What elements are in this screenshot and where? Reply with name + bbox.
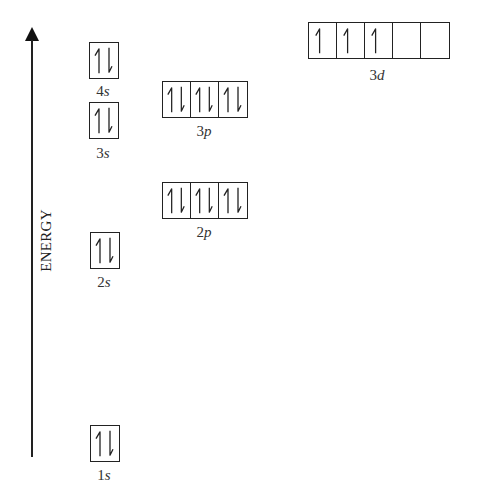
orbital-box	[365, 23, 393, 58]
orbital-box	[219, 82, 247, 117]
spin-pair-arrows-icon	[219, 82, 247, 117]
label-3s: 3s	[83, 145, 123, 162]
energy-arrowhead-icon	[25, 27, 39, 41]
label-3p: 3p	[184, 123, 224, 140]
spin-pair-arrows-icon	[90, 103, 118, 138]
label-2p: 2p	[184, 224, 224, 241]
orbital-box	[393, 23, 421, 58]
energy-axis	[31, 40, 33, 457]
spin-pair-arrows-icon	[163, 183, 190, 218]
energy-axis-label: ENERGY	[38, 206, 55, 276]
empty-box	[421, 23, 449, 58]
orbital-box	[91, 233, 119, 268]
orbital-box	[91, 426, 119, 461]
spin-up-arrow-icon	[337, 23, 364, 58]
orbital-3p	[162, 81, 248, 118]
orbital-2s	[90, 232, 120, 269]
orbital-3d	[308, 22, 450, 59]
label-4s: 4s	[83, 83, 123, 100]
orbital-box	[163, 183, 191, 218]
orbital-4s	[89, 42, 119, 79]
spin-pair-arrows-icon	[191, 183, 218, 218]
orbital-box	[309, 23, 337, 58]
empty-box	[393, 23, 420, 58]
spin-up-arrow-icon	[309, 23, 336, 58]
orbital-box	[90, 43, 118, 78]
spin-pair-arrows-icon	[191, 82, 218, 117]
spin-pair-arrows-icon	[219, 183, 247, 218]
orbital-box	[163, 82, 191, 117]
spin-up-arrow-icon	[365, 23, 392, 58]
orbital-box	[219, 183, 247, 218]
orbital-box	[421, 23, 449, 58]
orbital-2p	[162, 182, 248, 219]
orbital-3s	[89, 102, 119, 139]
spin-pair-arrows-icon	[163, 82, 190, 117]
spin-pair-arrows-icon	[91, 233, 119, 268]
label-2s: 2s	[84, 274, 124, 291]
label-1s: 1s	[84, 467, 124, 484]
orbital-box	[191, 82, 219, 117]
orbital-box	[191, 183, 219, 218]
spin-pair-arrows-icon	[91, 426, 119, 461]
cropped-top-text	[0, 0, 492, 6]
orbital-1s	[90, 425, 120, 462]
orbital-box	[337, 23, 365, 58]
orbital-box	[90, 103, 118, 138]
label-3d: 3d	[357, 67, 397, 84]
spin-pair-arrows-icon	[90, 43, 118, 78]
